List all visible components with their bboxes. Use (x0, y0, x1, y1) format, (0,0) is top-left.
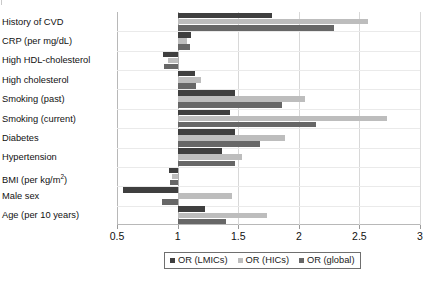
bar-high-hdl-cholesterol-or-hics (168, 58, 178, 64)
superscript-two: 2 (60, 173, 64, 180)
bar-high-hdl-cholesterol-or-lmics (163, 52, 178, 58)
x-tick-label-1-5: 1.5 (231, 230, 246, 242)
x-tick-mark (420, 225, 421, 229)
bar-high-cholesterol-or-global (178, 83, 196, 89)
plot-area (117, 12, 420, 225)
row-separator (117, 31, 420, 32)
category-label-high-cholesterol: High cholesterol (2, 75, 106, 85)
x-tick-mark (299, 225, 300, 229)
bar-hypertension-or-global (178, 161, 235, 167)
row-separator (117, 128, 420, 129)
row-separator (117, 148, 420, 149)
bar-diabetes-or-global (178, 141, 260, 147)
bar-diabetes-or-hics (178, 135, 286, 141)
bar-age-per-10-years-or-global (178, 219, 226, 225)
gridline-3 (420, 12, 421, 225)
legend-swatch-icon (299, 258, 304, 263)
x-tick-label-1: 1 (175, 230, 181, 242)
bar-diabetes-or-lmics (178, 129, 235, 135)
x-tick-mark (359, 225, 360, 229)
row-separator (117, 89, 420, 90)
legend-label: OR (global) (307, 255, 355, 266)
category-label-hypertension: Hypertension (2, 152, 106, 162)
legend-label: OR (HICs) (246, 255, 289, 266)
bar-smoking-past-or-lmics (178, 90, 235, 96)
bar-smoking-current-or-hics (178, 116, 388, 122)
bar-smoking-past-or-global (178, 102, 282, 108)
bar-crp-per-mg-dl-or-hics (178, 38, 188, 44)
gridline-0-5 (117, 12, 118, 225)
bar-hypertension-or-lmics (178, 148, 223, 154)
x-tick-label-3: 3 (417, 230, 423, 242)
category-label-age-per-10-years: Age (per 10 years) (2, 210, 106, 220)
bar-male-sex-or-hics (178, 193, 233, 199)
chart-legend: OR (LMICs)OR (HICs)OR (global) (164, 252, 361, 269)
category-label-smoking-past: Smoking (past) (2, 94, 106, 104)
category-label-bmi-per-kg-m: BMI (per kg/m2) (2, 172, 106, 185)
legend-item-or-global[interactable]: OR (global) (299, 255, 355, 266)
bar-smoking-current-or-lmics (178, 110, 230, 116)
row-separator (117, 206, 420, 207)
x-tick-label-2: 2 (296, 230, 302, 242)
legend-swatch-icon (170, 258, 175, 263)
legend-swatch-icon (238, 258, 243, 263)
corner-tick-mark (1, 0, 2, 5)
odds-ratio-bar-chart: History of CVDCRP (per mg/dL)High HDL-ch… (0, 0, 440, 282)
category-label-history-of-cvd: History of CVD (2, 17, 106, 27)
plot-baseline (117, 224, 420, 225)
bar-age-per-10-years-or-hics (178, 213, 268, 219)
bar-bmi-per-kg-m-or-lmics (169, 168, 177, 174)
bar-high-hdl-cholesterol-or-global (164, 64, 177, 70)
category-label-high-hdl-cholesterol: High HDL-cholesterol (2, 55, 106, 65)
bar-high-cholesterol-or-lmics (178, 71, 195, 77)
bar-crp-per-mg-dl-or-lmics (178, 32, 191, 38)
legend-label: OR (LMICs) (178, 255, 228, 266)
legend-item-or-lmics[interactable]: OR (LMICs) (170, 255, 228, 266)
x-tick-mark (238, 225, 239, 229)
bar-hypertension-or-hics (178, 154, 242, 160)
x-tick-label-2-5: 2.5 (352, 230, 367, 242)
x-tick-mark (117, 225, 118, 229)
bar-male-sex-or-global (162, 199, 178, 205)
bar-bmi-per-kg-m-or-global (170, 180, 177, 186)
category-label-smoking-current: Smoking (current) (2, 114, 106, 124)
bar-age-per-10-years-or-lmics (178, 206, 206, 212)
category-label-male-sex: Male sex (2, 191, 106, 201)
bar-smoking-current-or-global (178, 122, 316, 128)
bar-smoking-past-or-hics (178, 96, 305, 102)
row-separator (117, 109, 420, 110)
bar-history-of-cvd-or-hics (178, 19, 368, 25)
x-tick-mark (178, 225, 179, 229)
row-separator (117, 167, 420, 168)
x-tick-label-0-5: 0.5 (110, 230, 125, 242)
bar-male-sex-or-lmics (123, 187, 178, 193)
bar-history-of-cvd-or-lmics (178, 13, 273, 19)
bar-high-cholesterol-or-hics (178, 77, 201, 83)
legend-item-or-hics[interactable]: OR (HICs) (238, 255, 289, 266)
bar-bmi-per-kg-m-or-hics (172, 174, 178, 180)
bar-history-of-cvd-or-global (178, 25, 334, 31)
category-label-diabetes: Diabetes (2, 133, 106, 143)
category-label-crp-per-mg-dl: CRP (per mg/dL) (2, 36, 106, 46)
row-separator (117, 70, 420, 71)
bar-crp-per-mg-dl-or-global (178, 44, 190, 50)
